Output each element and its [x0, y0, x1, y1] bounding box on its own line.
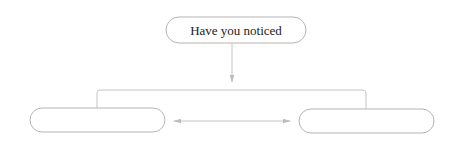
left-node — [30, 108, 165, 132]
right-node — [299, 109, 434, 133]
top-node-label: Have you noticed — [190, 23, 282, 38]
branch-connector — [97, 90, 366, 109]
top-node: Have you noticed — [166, 17, 306, 43]
flow-diagram: Have you noticed — [0, 0, 461, 146]
